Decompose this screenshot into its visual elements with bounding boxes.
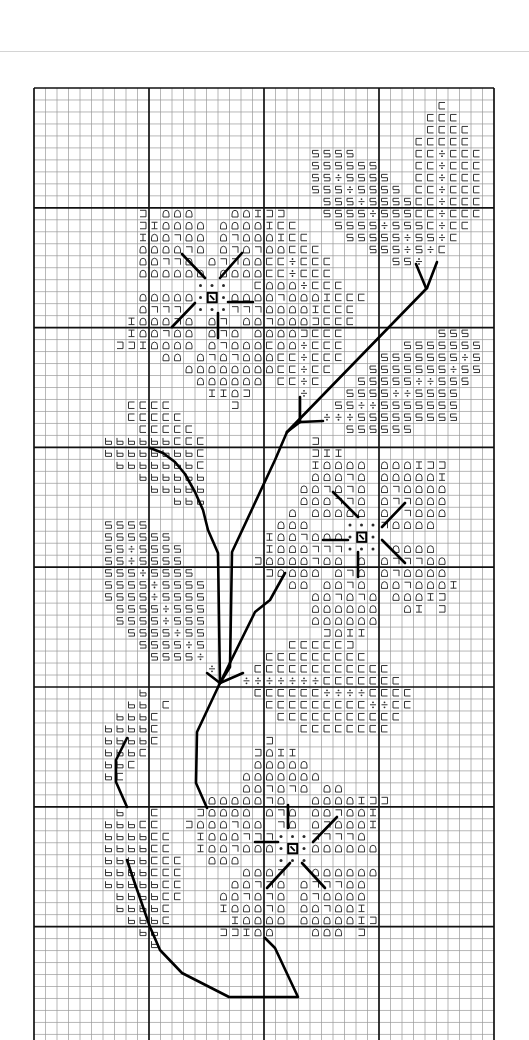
symbol-bell-arch-icon [336, 510, 342, 517]
symbol-bell-arch-icon [336, 558, 342, 565]
symbol-open-square-left-icon [117, 773, 123, 780]
symbol-squared-s-icon [416, 246, 422, 253]
symbol-squared-s-icon [152, 558, 158, 565]
symbol-squared-s-icon [347, 174, 353, 181]
symbol-bell-arch-icon [393, 462, 399, 469]
symbol-open-square-left-icon [313, 282, 319, 289]
symbol-squared-s-icon [347, 198, 353, 205]
symbol-bell-arch-icon [336, 582, 342, 589]
symbol-bell-arch-icon [290, 282, 296, 289]
symbol-squared-s-icon [370, 162, 376, 169]
symbol-open-square-left-icon [290, 642, 296, 649]
symbol-bell-arch-icon [359, 498, 365, 505]
symbol-open-square-left-icon [301, 246, 307, 253]
symbol-squared-s-icon [393, 258, 399, 265]
symbol-open-square-left-icon [359, 701, 365, 708]
symbol-bell-arch-icon [313, 773, 319, 780]
symbol-small-b-icon [163, 462, 169, 469]
symbol-squared-s-icon [129, 594, 135, 601]
symbol-open-square-left-icon [393, 701, 399, 708]
symbol-open-square-right-icon [140, 210, 146, 217]
symbol-small-b-icon [106, 833, 112, 840]
symbol-open-square-left-icon [278, 701, 284, 708]
symbol-open-square-left-icon [313, 330, 319, 337]
symbol-divide-icon [382, 701, 388, 708]
symbol-bell-arch-icon [232, 342, 238, 349]
symbol-open-square-left-icon [290, 222, 296, 229]
symbol-bell-arch-icon [313, 486, 319, 493]
symbol-bell-arch-icon [336, 893, 342, 900]
symbol-bell-arch-icon [439, 558, 445, 565]
symbol-open-square-left-icon [474, 198, 480, 205]
symbol-squared-s-icon [152, 642, 158, 649]
symbol-squared-s-icon [140, 642, 146, 649]
symbol-corner-bracket-icon [267, 906, 273, 912]
symbol-divide-icon [290, 677, 296, 684]
symbol-open-square-left-icon [347, 306, 353, 313]
symbol-bell-arch-icon [244, 917, 250, 924]
symbol-small-b-icon [129, 893, 135, 900]
symbol-bell-arch-icon [336, 606, 342, 613]
symbol-open-square-left-icon [290, 234, 296, 241]
symbol-open-square-left-icon [474, 186, 480, 193]
symbol-squared-s-icon [175, 558, 181, 565]
symbol-open-square-left-icon [278, 270, 284, 277]
symbol-squared-s-icon [370, 234, 376, 241]
symbol-open-square-left-icon [451, 222, 457, 229]
symbol-squared-s-icon [370, 426, 376, 433]
symbol-squared-s-icon [416, 390, 422, 397]
symbol-bell-arch-icon [186, 270, 192, 277]
symbol-divide-icon [347, 689, 353, 696]
symbol-bell-arch-icon [359, 869, 365, 876]
symbol-bell-arch-icon [290, 342, 296, 349]
symbol-bell-arch-icon [278, 797, 284, 804]
symbol-open-square-left-icon [462, 126, 468, 133]
symbol-i-beam-icon [416, 462, 422, 469]
symbol-squared-s-icon [462, 378, 468, 385]
symbol-corner-bracket-icon [232, 355, 238, 361]
symbol-french-knot-dot-icon [372, 524, 375, 527]
symbol-squared-s-icon [336, 162, 342, 169]
symbol-i-beam-icon [221, 390, 227, 397]
symbol-open-square-left-icon [324, 654, 330, 661]
symbol-french-knot-dot-icon [280, 859, 283, 862]
symbol-open-square-left-icon [382, 678, 388, 685]
symbol-french-knot-dot-icon [222, 296, 225, 299]
symbol-squared-s-icon [370, 222, 376, 229]
symbol-open-square-right-icon [232, 929, 238, 936]
symbol-bell-arch-icon [324, 618, 330, 625]
symbol-bell-arch-icon [267, 366, 273, 373]
symbol-squared-s-icon [428, 354, 434, 361]
symbol-bell-arch-icon [140, 318, 146, 325]
symbol-open-square-left-icon [129, 761, 135, 768]
symbol-open-square-left-icon [416, 174, 422, 181]
symbol-squared-s-icon [393, 378, 399, 385]
symbol-bell-arch-icon [290, 318, 296, 325]
symbol-squared-s-icon [416, 342, 422, 349]
symbol-squared-s-icon [198, 618, 204, 625]
symbol-squared-s-icon [382, 426, 388, 433]
symbol-bell-arch-icon [152, 342, 158, 349]
symbol-open-square-left-icon [290, 654, 296, 661]
symbol-bell-arch-icon [324, 606, 330, 613]
symbol-i-beam-icon [347, 630, 353, 637]
symbol-squared-s-icon [428, 414, 434, 421]
symbol-small-b-icon [152, 893, 158, 900]
symbol-bell-arch-icon [255, 258, 261, 265]
symbol-bell-arch-icon [336, 486, 342, 493]
symbol-open-square-left-icon [290, 713, 296, 720]
symbol-divide-icon [301, 354, 307, 361]
symbol-bell-arch-icon [359, 893, 365, 900]
symbol-squared-s-icon [106, 522, 112, 529]
symbol-open-square-right-icon [370, 797, 376, 804]
symbol-bell-arch-icon [221, 234, 227, 241]
symbol-corner-bracket-icon [255, 307, 261, 313]
symbol-bell-arch-icon [336, 845, 342, 852]
symbol-bell-arch-icon [175, 210, 181, 217]
symbol-bell-arch-icon [324, 474, 330, 481]
symbol-open-square-left-icon [382, 713, 388, 720]
symbol-bell-arch-icon [255, 761, 261, 768]
symbol-open-square-right-icon [267, 737, 273, 744]
symbol-open-square-left-icon [301, 270, 307, 277]
symbol-small-b-icon [152, 438, 158, 445]
